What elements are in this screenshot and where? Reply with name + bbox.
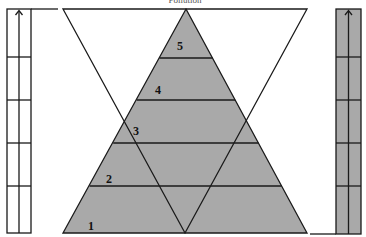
level-label-5: 5 <box>177 39 183 53</box>
pyramid <box>63 9 307 233</box>
level-label-4: 4 <box>155 83 161 97</box>
level-label-2: 2 <box>106 172 112 186</box>
level-label-3: 3 <box>133 124 139 138</box>
pyramid-diagram: Pollution 1 2 3 4 5 <box>0 0 366 237</box>
right-column <box>336 9 361 234</box>
left-column <box>7 9 31 233</box>
title-partial: Pollution <box>168 0 202 5</box>
level-label-1: 1 <box>88 219 94 233</box>
